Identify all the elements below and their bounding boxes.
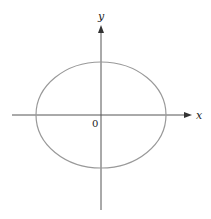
x-axis-arrow-icon (184, 112, 192, 118)
origin-label: 0 (92, 118, 98, 129)
y-axis-arrow-icon (98, 25, 104, 33)
x-axis-label: x (196, 109, 203, 122)
y-axis-label: y (97, 10, 105, 23)
ellipse-diagram: x y 0 (0, 0, 211, 219)
